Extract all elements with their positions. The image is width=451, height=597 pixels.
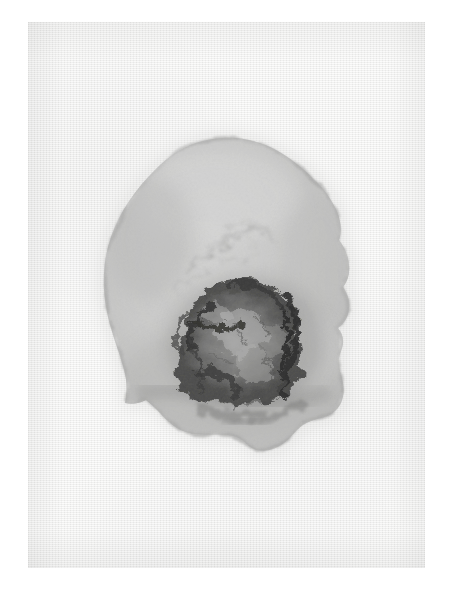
paper-texture-vertical [28,22,425,568]
blot-modelling [104,149,360,438]
paper-sheet [28,22,425,568]
left-claw-tendril [190,307,213,349]
ink-blot [28,22,425,568]
artboard: Untitled Ink Blot on Laid Paper [0,0,451,597]
core-tendrils [176,284,297,403]
paper-texture-horizontal [28,22,425,568]
dark-core [168,276,324,412]
blot-bleed-halo [99,134,354,456]
lower-dark-band [200,404,300,423]
ink-blot-svg [28,22,425,568]
blot-granulation [88,122,378,462]
blot-wash [104,138,350,451]
blot-rim [104,138,350,451]
paper-edge-shading [28,22,425,568]
right-ridge [283,294,297,395]
upper-wisp-streaks [176,223,276,290]
blot-paper-ribbing [88,122,378,462]
